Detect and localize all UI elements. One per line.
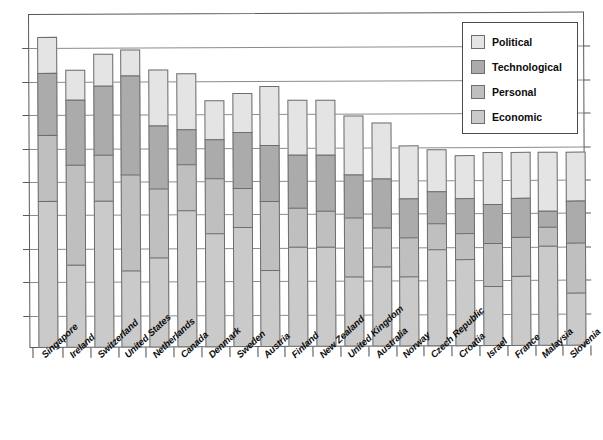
bar-segment-political[interactable]	[371, 122, 391, 179]
bar-segment-technological[interactable]	[37, 73, 57, 137]
x-axis-tick	[562, 346, 563, 356]
y-axis-tick-right	[583, 80, 590, 81]
bar-segment-technological[interactable]	[371, 178, 391, 228]
bar-switzerland[interactable]	[93, 54, 114, 347]
bar-segment-personal[interactable]	[511, 237, 531, 277]
legend-item-economic[interactable]: Economic	[471, 104, 577, 129]
bar-denmark[interactable]	[204, 101, 225, 348]
bar-segment-economic[interactable]	[205, 234, 225, 348]
bar-segment-economic[interactable]	[288, 247, 308, 347]
bar-finland[interactable]	[288, 100, 309, 347]
bar-segment-political[interactable]	[204, 100, 224, 140]
bar-segment-technological[interactable]	[566, 201, 586, 244]
bar-segment-personal[interactable]	[149, 188, 169, 258]
bar-segment-personal[interactable]	[372, 227, 392, 267]
bar-segment-technological[interactable]	[510, 198, 530, 238]
bar-segment-political[interactable]	[427, 149, 447, 192]
bar-israel[interactable]	[482, 153, 503, 346]
bar-segment-technological[interactable]	[455, 198, 475, 235]
bar-segment-technological[interactable]	[288, 155, 308, 209]
bar-segment-personal[interactable]	[538, 226, 558, 246]
bar-segment-technological[interactable]	[260, 145, 280, 202]
bar-segment-personal[interactable]	[455, 234, 475, 261]
bar-segment-personal[interactable]	[566, 243, 586, 293]
bar-czech-republic[interactable]	[427, 150, 448, 346]
bar-segment-political[interactable]	[148, 70, 168, 127]
bar-malaysia[interactable]	[538, 153, 559, 346]
bar-segment-technological[interactable]	[65, 99, 85, 166]
bar-norway[interactable]	[399, 147, 420, 347]
bar-united-states[interactable]	[121, 51, 142, 348]
y-axis-tick-right	[583, 113, 590, 114]
bar-segment-political[interactable]	[510, 152, 530, 199]
bar-segment-political[interactable]	[315, 99, 335, 156]
x-axis-tick	[90, 348, 91, 358]
bar-segment-personal[interactable]	[121, 175, 141, 272]
bar-segment-personal[interactable]	[344, 217, 364, 277]
bar-segment-technological[interactable]	[316, 155, 336, 212]
bar-segment-political[interactable]	[37, 37, 57, 74]
bar-segment-personal[interactable]	[232, 188, 252, 228]
x-axis-tick	[396, 346, 397, 356]
bar-segment-technological[interactable]	[399, 198, 419, 238]
bar-segment-technological[interactable]	[93, 86, 113, 156]
x-axis-tick	[201, 347, 202, 357]
bar-segment-personal[interactable]	[483, 243, 503, 286]
x-axis-tick	[62, 348, 63, 358]
bar-segment-political[interactable]	[65, 70, 85, 100]
bar-segment-technological[interactable]	[149, 126, 169, 190]
bar-sweden[interactable]	[232, 94, 253, 347]
bar-segment-personal[interactable]	[288, 208, 308, 248]
bar-segment-personal[interactable]	[399, 237, 419, 277]
bar-singapore[interactable]	[37, 38, 58, 348]
bar-segment-personal[interactable]	[38, 135, 58, 202]
legend-item-political[interactable]: Political	[471, 29, 577, 54]
bar-canada[interactable]	[176, 74, 197, 347]
legend-swatch-political	[471, 35, 485, 49]
bar-slovenia[interactable]	[566, 153, 587, 346]
bar-segment-economic[interactable]	[538, 246, 558, 346]
bar-segment-personal[interactable]	[260, 201, 280, 271]
bar-segment-political[interactable]	[288, 99, 308, 156]
bar-segment-personal[interactable]	[427, 224, 447, 251]
bar-segment-political[interactable]	[232, 93, 252, 133]
bar-segment-personal[interactable]	[65, 165, 85, 265]
bar-segment-personal[interactable]	[205, 178, 225, 235]
bar-segment-technological[interactable]	[177, 129, 197, 166]
bar-segment-political[interactable]	[176, 73, 196, 130]
bar-segment-political[interactable]	[538, 152, 558, 212]
bar-segment-political[interactable]	[399, 146, 419, 200]
bar-segment-technological[interactable]	[232, 132, 252, 189]
bar-netherlands[interactable]	[148, 71, 169, 348]
bar-ireland[interactable]	[65, 71, 86, 348]
x-axis-tick	[257, 347, 258, 357]
bar-segment-political[interactable]	[455, 155, 475, 198]
bar-segment-personal[interactable]	[93, 155, 113, 202]
bar-new-zealand[interactable]	[315, 100, 336, 347]
bar-segment-economic[interactable]	[93, 201, 114, 348]
bar-france[interactable]	[510, 153, 531, 346]
legend-swatch-personal	[471, 85, 485, 99]
bar-segment-technological[interactable]	[121, 76, 141, 176]
bar-segment-personal[interactable]	[316, 211, 336, 248]
bar-segment-technological[interactable]	[483, 204, 503, 244]
bar-segment-political[interactable]	[121, 50, 141, 77]
legend-item-personal[interactable]: Personal	[471, 79, 577, 104]
bar-austria[interactable]	[260, 87, 281, 347]
y-axis-tick-right	[584, 147, 591, 148]
bar-segment-personal[interactable]	[177, 165, 197, 212]
bar-segment-technological[interactable]	[204, 139, 224, 179]
bar-segment-technological[interactable]	[538, 211, 558, 228]
bar-segment-political[interactable]	[93, 53, 113, 86]
bar-segment-technological[interactable]	[344, 175, 364, 218]
bar-segment-economic[interactable]	[38, 201, 59, 348]
bar-segment-technological[interactable]	[427, 191, 447, 224]
bar-segment-political[interactable]	[343, 116, 363, 176]
bar-united-kingdom[interactable]	[343, 117, 364, 347]
bar-segment-economic[interactable]	[427, 249, 447, 346]
bar-segment-economic[interactable]	[316, 246, 336, 346]
bar-segment-political[interactable]	[482, 152, 502, 206]
legend-item-technological[interactable]: Technological	[471, 54, 577, 79]
bar-segment-political[interactable]	[566, 152, 586, 202]
bar-segment-political[interactable]	[260, 86, 280, 146]
